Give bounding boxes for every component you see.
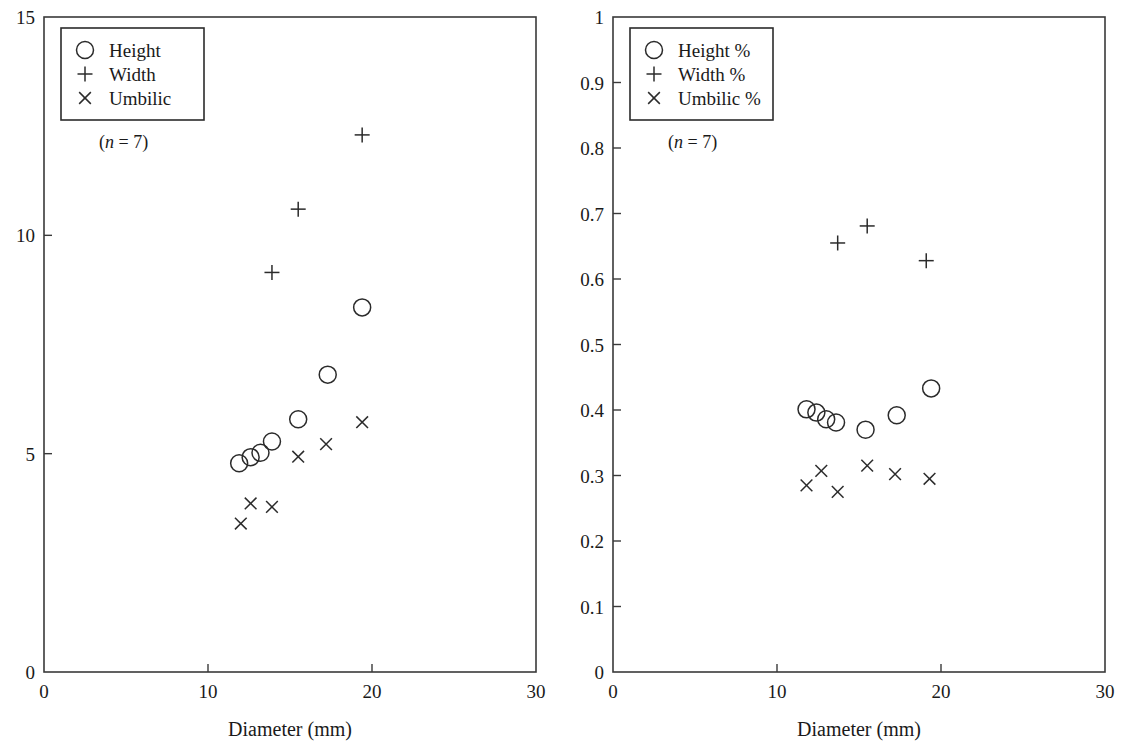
data-point (798, 401, 815, 418)
panel-left: 0102030051015Diameter (mm)HeightWidthUmb… (0, 0, 568, 750)
data-point (923, 380, 940, 397)
x-axis-title: Diameter (mm) (228, 718, 352, 741)
plot-right: 010203000.10.20.30.40.50.60.70.80.91Diam… (569, 0, 1137, 750)
legend-label: Umbilic % (678, 88, 761, 109)
y-tick-label: 0.9 (580, 73, 604, 94)
data-point (319, 366, 336, 383)
y-tick-label: 0.1 (580, 597, 604, 618)
plot-left: 0102030051015Diameter (mm)HeightWidthUmb… (0, 0, 568, 750)
y-tick-label: 0 (595, 662, 605, 683)
y-tick-label: 0 (26, 662, 36, 683)
y-tick-label: 0.5 (580, 335, 604, 356)
x-tick-label: 0 (39, 681, 49, 702)
y-tick-label: 1 (595, 7, 605, 28)
data-point (808, 404, 825, 421)
x-tick-label: 20 (932, 681, 951, 702)
y-tick-label: 0.4 (580, 400, 604, 421)
series-umbilic (801, 460, 936, 498)
x-tick-label: 30 (527, 681, 546, 702)
series-width (830, 218, 934, 268)
panel-right: 010203000.10.20.30.40.50.60.70.80.91Diam… (569, 0, 1137, 750)
y-tick-label: 15 (16, 7, 35, 28)
y-tick-label: 5 (26, 444, 36, 465)
data-point (263, 433, 280, 450)
series-height (798, 380, 940, 438)
sample-size-annotation: (n = 7) (99, 132, 148, 153)
x-tick-label: 0 (608, 681, 618, 702)
data-point (888, 407, 905, 424)
data-point (354, 299, 371, 316)
legend-label: Width (109, 64, 156, 85)
legend-label: Width % (678, 64, 745, 85)
y-tick-label: 0.7 (580, 204, 604, 225)
x-tick-label: 30 (1096, 681, 1115, 702)
series-umbilic (235, 416, 368, 529)
x-tick-label: 20 (363, 681, 382, 702)
scatter-figure: 0102030051015Diameter (mm)HeightWidthUmb… (0, 0, 1137, 750)
series-width (264, 127, 369, 280)
x-axis-title: Diameter (mm) (797, 718, 921, 741)
y-tick-label: 10 (16, 225, 35, 246)
data-point (828, 414, 845, 431)
x-tick-label: 10 (768, 681, 787, 702)
data-point (818, 411, 835, 428)
y-tick-label: 0.2 (580, 531, 604, 552)
legend-label: Umbilic (109, 88, 171, 109)
legend-label: Height % (678, 40, 750, 61)
series-height (231, 299, 371, 472)
sample-size-annotation: (n = 7) (668, 132, 717, 153)
legend-label: Height (109, 40, 161, 61)
data-point (857, 421, 874, 438)
y-tick-label: 0.8 (580, 138, 604, 159)
x-tick-label: 10 (199, 681, 218, 702)
y-tick-label: 0.6 (580, 269, 604, 290)
data-point (290, 411, 307, 428)
data-point (252, 444, 269, 461)
y-tick-label: 0.3 (580, 466, 604, 487)
